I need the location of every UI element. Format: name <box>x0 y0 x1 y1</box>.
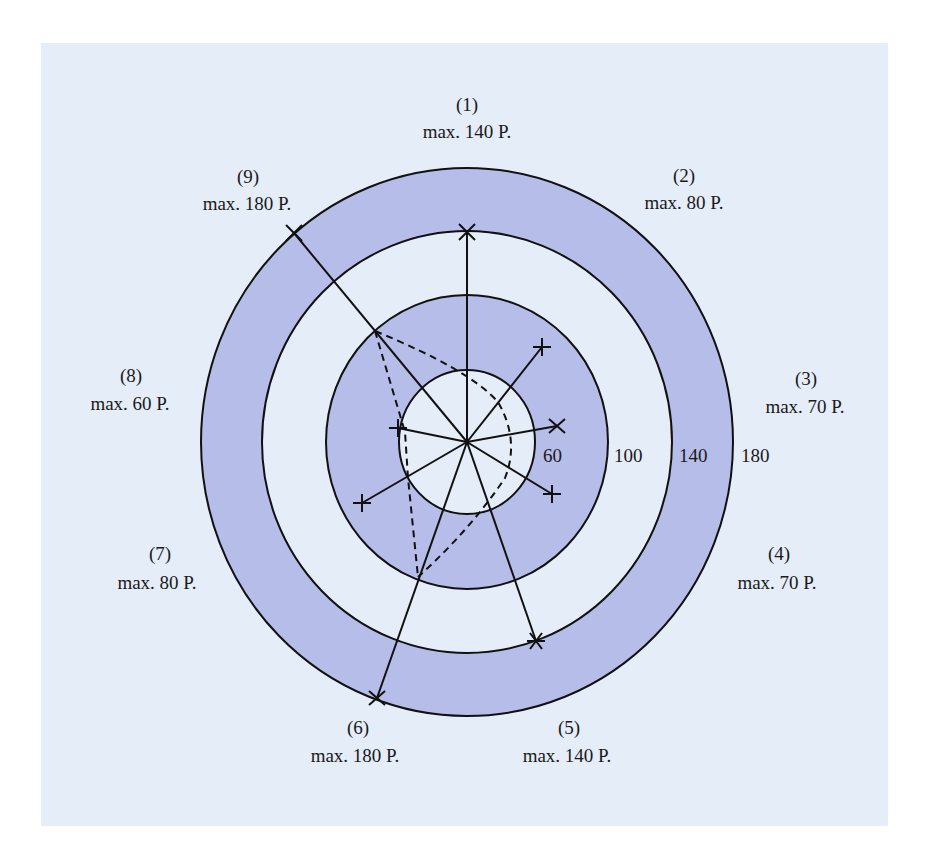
axis-3-max: max. 70 P. <box>765 396 844 417</box>
axis-4-max: max. 70 P. <box>737 572 816 593</box>
axis-1-number: (1) <box>456 94 478 116</box>
ring-label-180: 180 <box>741 445 770 466</box>
ring-label-140: 140 <box>679 445 708 466</box>
axis-7-number: (7) <box>149 543 171 565</box>
axis-3-number: (3) <box>795 368 817 390</box>
axis-9-max: max. 180 P. <box>203 193 292 214</box>
axis-9-number: (9) <box>237 166 259 188</box>
axis-6-number: (6) <box>347 717 369 739</box>
axis-8-max: max. 60 P. <box>90 393 169 414</box>
radar-diagram: 60 100 140 180 (1) max. 140 P. (2) max. … <box>0 0 929 856</box>
axis-5-max: max. 140 P. <box>523 745 612 766</box>
axis-2-number: (2) <box>673 165 695 187</box>
ring-label-60: 60 <box>543 445 562 466</box>
axis-5-number: (5) <box>558 717 580 739</box>
axis-7-max: max. 80 P. <box>117 572 196 593</box>
axis-2-max: max. 80 P. <box>644 192 723 213</box>
axis-1-max: max. 140 P. <box>423 121 512 142</box>
ring-label-100: 100 <box>614 445 643 466</box>
axis-4-number: (4) <box>768 543 790 565</box>
axis-8-number: (8) <box>120 365 142 387</box>
axis-6-max: max. 180 P. <box>311 745 400 766</box>
